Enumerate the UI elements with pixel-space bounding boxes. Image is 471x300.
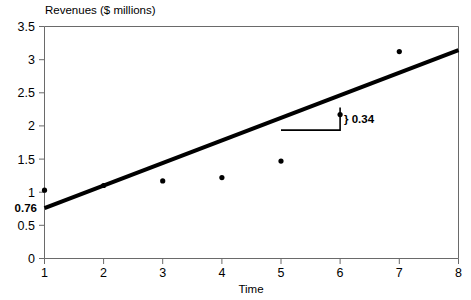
y-tick-label-0-5: 0.5 (18, 219, 35, 233)
x-axis-ticks (45, 259, 459, 265)
slope-label: } 0.34 (344, 113, 375, 125)
y-tick-label-1: 1 (28, 186, 35, 200)
data-point-6 (338, 112, 343, 117)
y-axis-ticks (39, 27, 45, 259)
x-tick-label-3: 3 (159, 266, 166, 280)
data-point-2 (101, 183, 106, 188)
data-point-3 (160, 178, 165, 183)
data-point-7 (397, 49, 402, 54)
x-tick-label-6: 6 (337, 266, 344, 280)
x-tick-label-8: 8 (455, 266, 462, 280)
intercept-label: 0.76 (15, 202, 37, 214)
x-tick-label-2: 2 (100, 266, 107, 280)
x-tick-label-1: 1 (41, 266, 48, 280)
y-tick-label-1-5: 1.5 (18, 153, 35, 167)
x-tick-label-5: 5 (278, 266, 285, 280)
y-tick-label-3-5: 3.5 (18, 20, 35, 34)
y-tick-label-0: 0 (28, 252, 35, 266)
data-point-4 (219, 175, 224, 180)
plot-frame (45, 27, 459, 259)
y-axis-title: Revenues ($ millions) (45, 4, 156, 16)
y-tick-label-3: 3 (28, 53, 35, 67)
revenues-scatter-chart: Revenues ($ millions) 3.5 3 2.5 2 1.5 1 … (0, 0, 471, 300)
data-point-5 (278, 159, 283, 164)
data-point-1 (42, 188, 47, 193)
x-tick-label-4: 4 (218, 266, 225, 280)
cropped-caption-strip (0, 293, 471, 300)
slope-triangle (281, 108, 340, 131)
y-tick-label-2-5: 2.5 (18, 86, 35, 100)
chart-screenshot: Revenues ($ millions) 3.5 3 2.5 2 1.5 1 … (0, 0, 471, 300)
trend-line (45, 50, 459, 208)
y-tick-label-2: 2 (28, 119, 35, 133)
x-tick-label-7: 7 (396, 266, 403, 280)
